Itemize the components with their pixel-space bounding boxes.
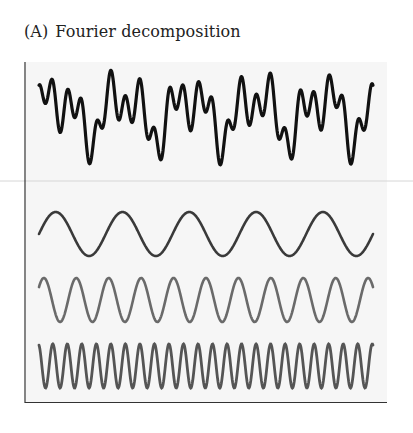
fourier-diagram bbox=[0, 0, 413, 433]
